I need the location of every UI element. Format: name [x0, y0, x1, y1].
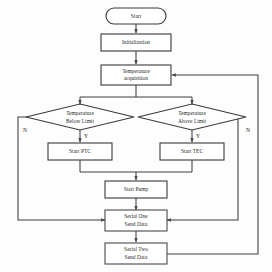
node-temperature-acquisition-line1: Temperature	[122, 68, 150, 74]
node-serial-one-line2: Send Data	[125, 221, 148, 227]
branch-label-below-no: N	[23, 127, 27, 133]
flowchart-canvas: Start Initialization Temperature acquisi…	[0, 0, 272, 272]
node-serial-one-line1: Serial One	[124, 213, 148, 219]
node-temperature-acquisition-line2: acquisition	[124, 75, 148, 81]
branch-label-above-no: N	[246, 127, 250, 133]
flowchart-svg: Start Initialization Temperature acquisi…	[0, 0, 272, 272]
node-initialization[interactable]: Initialization	[101, 34, 171, 51]
node-start-pump-label: Start Pump	[124, 186, 149, 192]
connector-below-no-to-serial-one	[18, 117, 105, 220]
node-decision-above-limit[interactable]: Temperature Above Limit	[138, 104, 246, 130]
node-start-ptc[interactable]: Start PTC	[48, 143, 112, 160]
node-start-tec-label: Start TEC	[181, 148, 203, 154]
node-decision-below-limit[interactable]: Temperature Below Limit	[26, 104, 134, 130]
connector-above-no-to-serial-one	[167, 117, 238, 220]
node-temperature-acquisition[interactable]: Temperature acquisition	[101, 65, 171, 85]
node-serial-one-send-data[interactable]: Serial One Send Data	[105, 210, 167, 231]
node-start-ptc-label: Start PTC	[69, 148, 91, 154]
node-decision-above-limit-line1: Temperature	[178, 110, 206, 116]
connector-serial-two-feedback-to-acquisition	[167, 75, 258, 254]
node-decision-below-limit-line2: Below Limit	[66, 118, 94, 124]
node-serial-two-send-data[interactable]: Serial Two Send Data	[105, 243, 167, 264]
branch-label-below-yes: Y	[84, 133, 88, 139]
node-decision-above-limit-line2: Above Limit	[178, 118, 207, 124]
node-start-tec[interactable]: Start TEC	[160, 143, 224, 160]
node-serial-two-line2: Send Data	[125, 254, 148, 260]
node-start-label: Start	[131, 13, 142, 19]
node-start-pump[interactable]: Start Pump	[105, 181, 167, 198]
node-decision-below-limit-line1: Temperature	[66, 110, 94, 116]
node-start[interactable]: Start	[106, 8, 166, 24]
branch-label-above-yes: Y	[196, 133, 200, 139]
node-serial-two-line1: Serial Two	[124, 246, 148, 252]
node-initialization-label: Initialization	[122, 39, 150, 45]
